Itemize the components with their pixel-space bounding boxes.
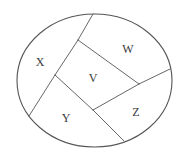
w-z-divider: [139, 69, 170, 84]
region-label-w: W: [122, 43, 133, 55]
y-z-divider: [93, 110, 124, 141]
left-divider-upper: [78, 14, 93, 40]
y-divider-upper: [55, 75, 93, 110]
region-label-v: V: [89, 72, 98, 84]
region-diagram: X W V Y Z: [0, 0, 182, 159]
left-divider-middle: [55, 40, 78, 75]
region-label-z: Z: [132, 106, 139, 118]
region-label-y: Y: [62, 112, 71, 124]
left-divider-lower: [29, 75, 55, 116]
region-label-x: X: [36, 56, 45, 68]
